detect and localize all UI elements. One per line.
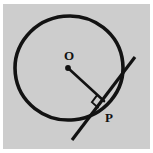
radius-segment <box>68 68 104 101</box>
figure-panel: O P <box>3 4 150 149</box>
label-tangent-point-p: P <box>105 110 113 125</box>
figure-root: O P <box>0 0 153 153</box>
right-angle-marker-icon <box>92 95 99 108</box>
label-center-o: O <box>64 48 74 63</box>
geometry-diagram: O P <box>3 4 150 149</box>
center-point-dot <box>65 65 71 71</box>
tangent-line <box>72 57 135 140</box>
